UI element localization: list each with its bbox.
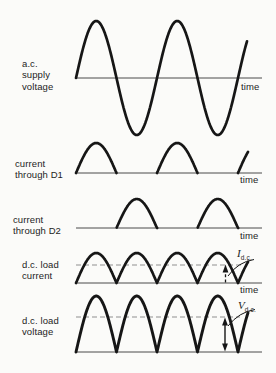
time-axis-label-d1: time — [240, 174, 258, 185]
panel-label-current-through-d2: current through D2 — [13, 214, 61, 237]
time-axis-label-ac: time — [241, 81, 259, 92]
label-line: current — [13, 214, 61, 225]
idc-annotation-label: Id.c. — [237, 247, 252, 261]
label-line: supply — [22, 69, 53, 80]
panel-label-current-through-d1: current through D1 — [15, 158, 63, 181]
d2-hump-1 — [117, 199, 158, 228]
d1-hump-partial — [238, 152, 248, 173]
label-line: current — [22, 270, 59, 281]
label-line: d.c. load — [22, 259, 59, 270]
idc-arrow-head — [223, 265, 229, 273]
d2-hump-2 — [198, 199, 239, 228]
d1-hump-2 — [157, 143, 198, 173]
label-line: d.c. load — [22, 315, 59, 326]
idc-subscript: d.c. — [241, 254, 252, 261]
vdc-symbol: V — [238, 299, 245, 311]
label-line: voltage — [22, 81, 53, 92]
time-axis-label-d2: time — [240, 230, 258, 241]
label-line: through D1 — [15, 169, 63, 180]
rectifier-waveforms-figure: a.c. supply voltage current through D1 c… — [0, 0, 276, 373]
label-line: voltage — [22, 326, 59, 337]
panel-label-ac-supply-voltage: a.c. supply voltage — [22, 58, 53, 92]
label-line: current — [15, 158, 63, 169]
vdc-annotation-label: Vd.c. — [238, 299, 256, 313]
time-axis-label-idc: time — [240, 284, 258, 295]
panel-label-dc-load-voltage: d.c. load voltage — [22, 315, 59, 338]
vdc-subscript: d.c. — [245, 306, 256, 313]
panel-label-dc-load-current: d.c. load current — [22, 259, 59, 282]
label-line: through D2 — [13, 225, 61, 236]
vdc-arrow-head-top — [222, 318, 228, 326]
d1-hump-1 — [76, 143, 117, 173]
label-line: a.c. — [22, 58, 53, 69]
idc-fullwave-curve — [76, 253, 248, 283]
vdc-arrow-head-bottom — [222, 344, 228, 352]
